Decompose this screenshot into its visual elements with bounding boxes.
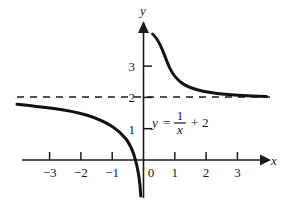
figure-container: −3 −2 −1 1 2 3 0 1 2 3 x y y = 1 x + 2 [0, 0, 284, 205]
origin-label: 0 [148, 165, 155, 180]
x-axis-arrow-icon [260, 155, 271, 166]
x-tick-label--1: −1 [105, 165, 119, 180]
curve-right-branch [153, 34, 267, 96]
x-tick-label-2: 2 [203, 165, 210, 180]
y-axis-label: y [138, 3, 146, 18]
x-axis-label: x [270, 153, 277, 168]
equation-numerator: 1 [177, 108, 184, 123]
x-tick-label-1: 1 [172, 165, 179, 180]
equation-lhs: y [150, 115, 158, 130]
equation-denominator: x [176, 122, 183, 137]
curve-left-branch [17, 104, 141, 196]
y-tick-label-2: 2 [129, 90, 136, 105]
y-tick-label-3: 3 [129, 59, 136, 74]
equation-equals: = [163, 115, 170, 130]
x-tick-label--3: −3 [43, 165, 57, 180]
y-axis-ticks [144, 66, 153, 129]
x-tick-label-3: 3 [234, 165, 241, 180]
equation-constant: 2 [202, 115, 209, 130]
x-tick-label--2: −2 [74, 165, 88, 180]
equation-plus: + [191, 115, 198, 130]
equation-label: y = 1 x + 2 [150, 108, 209, 137]
graph-canvas: −3 −2 −1 1 2 3 0 1 2 3 x y y = 1 x + 2 [0, 0, 284, 205]
y-tick-label-1: 1 [129, 122, 136, 137]
y-axis-arrow-icon [138, 21, 149, 33]
